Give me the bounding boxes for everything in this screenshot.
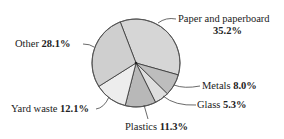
label-paper-pct: 35.2% <box>213 25 242 36</box>
label-other: Other 28.1% <box>15 38 70 50</box>
label-yard-pct: 12.1% <box>60 103 89 114</box>
label-other-pct: 28.1% <box>42 38 71 49</box>
label-yard: Yard waste 12.1% <box>11 103 89 115</box>
label-metals: Metals 8.0% <box>202 80 257 92</box>
leader-yard <box>96 97 109 109</box>
pie-center <box>135 62 138 65</box>
label-plastics: Plastics 11.3% <box>125 121 188 133</box>
leader-plastics <box>144 105 148 119</box>
label-glass-pct: 5.3% <box>223 99 247 110</box>
label-yard-name: Yard waste <box>11 103 57 114</box>
label-metals-name: Metals <box>202 80 231 91</box>
label-paper: Paper and paperboard <box>178 13 270 25</box>
label-paper-name: Paper and paperboard <box>178 13 270 24</box>
label-metals-pct: 8.0% <box>233 80 257 91</box>
leader-paper <box>158 19 176 24</box>
label-plastics-pct: 11.3% <box>160 121 188 132</box>
label-paper-value: 35.2% <box>213 25 242 37</box>
leader-metals <box>174 85 200 87</box>
label-glass: Glass 5.3% <box>197 99 247 111</box>
label-plastics-name: Plastics <box>125 121 157 132</box>
leader-glass <box>163 96 196 105</box>
label-other-name: Other <box>15 38 39 49</box>
leader-other <box>83 44 94 47</box>
label-glass-name: Glass <box>197 99 220 110</box>
